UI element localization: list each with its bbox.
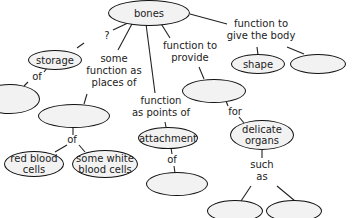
node-bones: bones (108, 0, 190, 26)
node-white-blood-cells: some white blood cells (72, 150, 138, 178)
concept-map: bones ? storage of some function as plac… (0, 0, 352, 218)
label-provide: function to provide (158, 40, 222, 64)
label-points-of: function as points of (130, 95, 192, 119)
node-shape: shape (231, 54, 285, 74)
node-places-blank (38, 104, 110, 128)
node-shape-blank (290, 54, 346, 74)
label-give-the-body: function to give the body (222, 18, 300, 42)
label-of-cells: of (64, 134, 80, 146)
node-storage: storage (28, 50, 82, 70)
node-red-blood-cells: red blood cells (4, 151, 64, 177)
label-of-storage: of (30, 71, 44, 83)
node-organ-example-2 (266, 200, 322, 218)
label-question: ? (101, 30, 113, 42)
node-attachment-of-blank (146, 172, 208, 196)
label-for: for (226, 106, 244, 118)
node-organ-example-1 (207, 200, 263, 218)
node-attachment: attachment (138, 127, 198, 149)
node-provide-blank (182, 79, 246, 103)
label-such-as: such as (248, 159, 276, 183)
label-places-of: some function as places of (84, 53, 144, 89)
node-delicate-organs: delicate organs (230, 120, 294, 150)
label-of-attachment: of (164, 154, 180, 166)
